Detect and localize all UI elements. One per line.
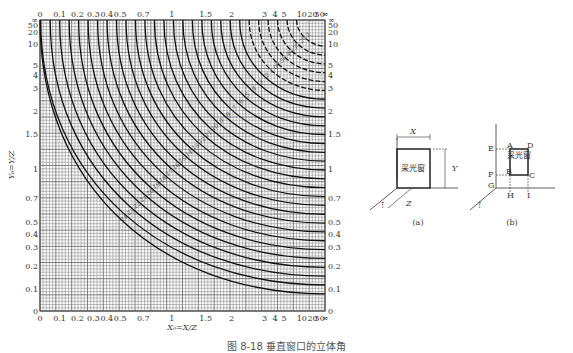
svg-text:0.7: 0.7 <box>137 10 150 19</box>
svg-text:1: 1 <box>33 165 38 174</box>
point-g: G <box>488 181 494 190</box>
svg-text:∞: ∞ <box>31 16 38 25</box>
svg-text:5: 5 <box>281 314 286 323</box>
svg-text:4: 4 <box>273 314 278 323</box>
svg-text:0.2: 0.2 <box>71 314 84 323</box>
diagram-b: 采光窗 A B C D E F G H I ⇡ (b) <box>470 124 555 227</box>
svg-text:2: 2 <box>33 107 38 116</box>
svg-text:5: 5 <box>328 61 333 70</box>
svg-text:2: 2 <box>328 107 333 116</box>
svg-text:2: 2 <box>229 10 234 19</box>
svg-text:0.5: 0.5 <box>114 10 127 19</box>
observer-arrow-icon: ⇡ <box>476 200 484 210</box>
x-axis-label: X₀=X/Z <box>166 323 197 332</box>
y-axis-ticks-right: 00.10.20.30.40.50.711.52345102050∞ <box>328 16 341 316</box>
svg-text:10: 10 <box>328 40 338 49</box>
svg-text:0.7: 0.7 <box>328 194 341 203</box>
svg-text:5: 5 <box>33 61 38 70</box>
svg-text:0.4: 0.4 <box>100 10 113 19</box>
svg-text:0.3: 0.3 <box>87 10 100 19</box>
svg-text:0.1: 0.1 <box>53 314 66 323</box>
y-axis-label: Y₀=Y/Z <box>7 150 16 179</box>
svg-text:1.5: 1.5 <box>199 10 212 19</box>
svg-text:0.5: 0.5 <box>25 218 38 227</box>
svg-text:0: 0 <box>37 314 42 323</box>
svg-text:10: 10 <box>28 40 38 49</box>
svg-text:0: 0 <box>33 307 38 316</box>
svg-text:0.3: 0.3 <box>328 243 341 252</box>
svg-text:1.5: 1.5 <box>25 130 38 139</box>
svg-text:4: 4 <box>273 10 278 19</box>
dim-y-label: Y <box>452 164 458 173</box>
svg-text:0.1: 0.1 <box>53 10 66 19</box>
svg-text:1: 1 <box>328 165 333 174</box>
svg-text:10: 10 <box>297 314 307 323</box>
dim-z-label: Z <box>405 199 412 208</box>
svg-text:20: 20 <box>328 28 338 37</box>
svg-text:3: 3 <box>262 314 267 323</box>
svg-text:0: 0 <box>328 307 333 316</box>
svg-text:0.4: 0.4 <box>100 314 113 323</box>
window-label-b: 采光窗 <box>507 150 531 160</box>
svg-text:10: 10 <box>297 10 307 19</box>
svg-text:4: 4 <box>33 71 38 80</box>
svg-text:0.5: 0.5 <box>114 314 127 323</box>
svg-text:0.7: 0.7 <box>137 314 150 323</box>
svg-text:4: 4 <box>328 71 333 80</box>
diagram-a: X 采光窗 Y Z ⇡ (a) <box>370 127 458 227</box>
svg-text:0.7: 0.7 <box>25 194 38 203</box>
point-f: F <box>488 170 494 179</box>
svg-text:1: 1 <box>169 10 174 19</box>
point-h: H <box>507 191 514 200</box>
dim-x-label: X <box>409 127 416 136</box>
svg-text:1.5: 1.5 <box>199 314 212 323</box>
figure-caption: 图 8-18 垂直窗口的立体角 <box>0 338 573 353</box>
svg-text:1: 1 <box>169 314 174 323</box>
svg-text:0.3: 0.3 <box>87 314 100 323</box>
diagram-a-label: (a) <box>412 218 423 227</box>
svg-text:2: 2 <box>229 314 234 323</box>
point-i: I <box>527 191 530 200</box>
svg-text:3: 3 <box>262 10 267 19</box>
svg-text:20: 20 <box>28 28 38 37</box>
svg-text:0.1: 0.1 <box>328 285 341 294</box>
svg-text:0.5: 0.5 <box>328 218 341 227</box>
svg-text:0.1: 0.1 <box>25 285 38 294</box>
svg-text:∞: ∞ <box>328 16 335 25</box>
point-e: E <box>488 144 494 153</box>
svg-text:3: 3 <box>33 84 38 93</box>
svg-text:0.2: 0.2 <box>328 262 341 271</box>
observer-arrow-icon: ⇡ <box>379 200 387 210</box>
svg-text:5: 5 <box>281 10 286 19</box>
svg-text:0.3: 0.3 <box>25 243 38 252</box>
svg-text:0.4: 0.4 <box>25 230 38 239</box>
svg-text:0.4: 0.4 <box>328 230 341 239</box>
point-b: B <box>506 167 512 176</box>
point-d: D <box>527 141 533 150</box>
point-a: A <box>506 141 513 150</box>
svg-text:1.5: 1.5 <box>328 130 341 139</box>
svg-text:0: 0 <box>37 10 42 19</box>
svg-text:3: 3 <box>328 84 333 93</box>
svg-text:0.2: 0.2 <box>25 262 38 271</box>
window-label-a: 采光窗 <box>401 163 425 173</box>
y-axis-ticks-left: 00.10.20.30.40.50.711.52345102050∞ <box>25 16 38 316</box>
point-c: C <box>529 171 535 180</box>
diagram-b-label: (b) <box>506 218 517 227</box>
svg-text:0.2: 0.2 <box>71 10 84 19</box>
